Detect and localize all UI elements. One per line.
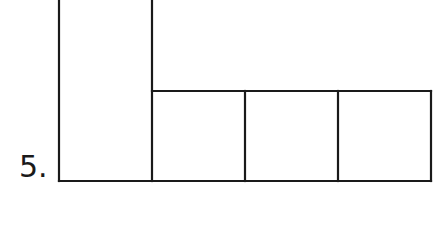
square-2 — [245, 91, 338, 181]
net-figure — [0, 0, 446, 228]
square-1 — [152, 91, 245, 181]
square-3 — [338, 91, 431, 181]
tall-rectangle — [59, 0, 152, 181]
